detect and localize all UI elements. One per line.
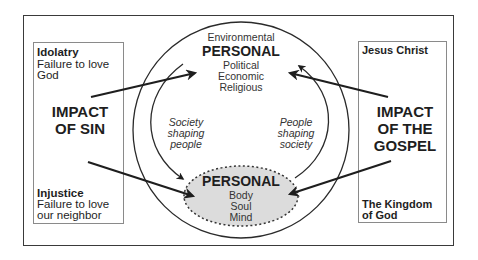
economic-label: Economic (191, 71, 291, 82)
outer-personal-title: PERSONAL (191, 44, 291, 58)
gospel-to-society-arrow (290, 73, 388, 97)
sin-to-society-arrow (91, 73, 195, 97)
society-label: Society (158, 117, 214, 128)
inner-personal-title: PERSONAL (191, 174, 291, 188)
people-label-left: people (158, 139, 214, 150)
religious-label: Religious (191, 82, 291, 93)
mind-label: Mind (191, 212, 291, 223)
society-label-right: society (268, 139, 324, 150)
gospel-to-personal-arrow (290, 161, 391, 194)
political-label: Political (191, 60, 291, 71)
shaping-label-left: shaping (158, 128, 214, 139)
soul-label: Soul (191, 201, 291, 212)
body-label: Body (191, 190, 291, 201)
shaping-label-right: shaping (268, 128, 324, 139)
people-label-right: People (268, 117, 324, 128)
environmental-label: Environmental (191, 32, 291, 43)
sin-to-personal-arrow (88, 162, 193, 196)
